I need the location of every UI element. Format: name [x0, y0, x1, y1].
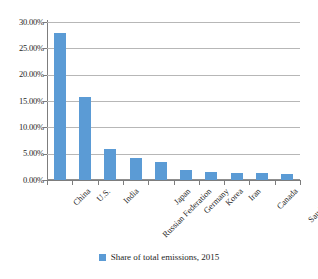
- bar-series: [47, 22, 300, 180]
- bar-slot: [98, 22, 123, 180]
- legend-label: Share of total emissions, 2015: [111, 252, 220, 262]
- bar-slot: [123, 22, 148, 180]
- bar-germany[interactable]: [180, 170, 192, 180]
- x-axis-label-iran: Iran: [246, 186, 263, 203]
- x-axis-tick: [174, 181, 175, 185]
- bar-slot: [224, 22, 249, 180]
- bar-india[interactable]: [104, 149, 116, 180]
- x-axis-label-saudi-arabia: Saudi Arabia: [306, 186, 318, 224]
- x-axis-tick: [199, 181, 200, 185]
- x-axis-tick: [300, 181, 301, 185]
- y-axis-tick-label: 30.00%: [0, 18, 44, 27]
- x-axis-tick: [123, 181, 124, 185]
- bar-korea[interactable]: [205, 172, 217, 180]
- x-axis-labels: China U.S. India Russian Federation Japa…: [47, 186, 300, 256]
- x-axis-label-canada: Canada: [275, 186, 300, 211]
- bar-slot: [47, 22, 72, 180]
- x-axis-tick: [72, 181, 73, 185]
- y-axis-tick-label: 25.00%: [0, 44, 44, 53]
- bar-slot: [72, 22, 97, 180]
- plot-area: [47, 22, 300, 180]
- bar-slot: [148, 22, 173, 180]
- y-axis-tick-label: 0.00%: [0, 176, 44, 185]
- y-axis-tick-label: 20.00%: [0, 70, 44, 79]
- x-axis-tick: [224, 181, 225, 185]
- y-axis-tick-label: 5.00%: [0, 149, 44, 158]
- y-axis-labels: 30.00% 25.00% 20.00% 15.00% 10.00% 5.00%…: [0, 0, 44, 279]
- x-axis-tick: [47, 181, 48, 185]
- bar-iran[interactable]: [231, 173, 243, 180]
- bar-chart: 30.00% 25.00% 20.00% 15.00% 10.00% 5.00%…: [0, 0, 318, 279]
- bar-china[interactable]: [54, 33, 66, 180]
- bar-us[interactable]: [79, 97, 91, 180]
- chart-legend: Share of total emissions, 2015: [0, 252, 318, 262]
- bar-slot: [199, 22, 224, 180]
- x-axis-label-china: China: [71, 186, 92, 207]
- y-axis-tick-label: 10.00%: [0, 123, 44, 132]
- bar-slot: [249, 22, 274, 180]
- bar-russian-federation[interactable]: [130, 158, 142, 181]
- x-axis-tick: [98, 181, 99, 185]
- x-axis-tick: [275, 181, 276, 185]
- x-axis-tick: [148, 181, 149, 185]
- bar-slot: [275, 22, 300, 180]
- x-axis-label-india: India: [121, 186, 140, 205]
- bar-japan[interactable]: [155, 162, 167, 180]
- bar-slot: [174, 22, 199, 180]
- bar-canada[interactable]: [256, 173, 268, 180]
- y-axis-tick-label: 15.00%: [0, 97, 44, 106]
- x-axis-tick: [249, 181, 250, 185]
- x-axis-label-us: U.S.: [95, 186, 113, 204]
- legend-swatch-icon: [99, 254, 106, 261]
